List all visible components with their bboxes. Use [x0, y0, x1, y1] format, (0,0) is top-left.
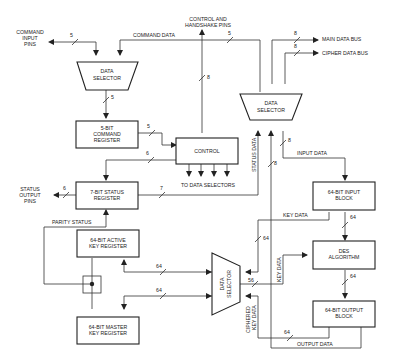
- svg-text:64: 64: [350, 214, 356, 220]
- svg-text:5: 5: [228, 30, 231, 36]
- parity-status-label: PARITY STATUS: [52, 219, 92, 225]
- control-block: CONTROL: [176, 138, 238, 164]
- active-key-register-block: 64-BIT ACTIVE KEY REGISTER: [77, 230, 139, 257]
- svg-text:64: 64: [156, 287, 162, 293]
- svg-text:PINS: PINS: [24, 41, 37, 47]
- ciphered-key-data-label: CIPHERED KEY DATA: [245, 305, 257, 333]
- data-selector-top-left: DATA SELECTOR: [77, 62, 138, 90]
- status-data-label: STATUS DATA: [251, 137, 257, 172]
- des-algorithm-block: DES ALGORITHM: [313, 241, 375, 269]
- svg-text:DATA: DATA: [264, 100, 278, 106]
- svg-text:KEY REGISTER: KEY REGISTER: [89, 243, 127, 249]
- svg-text:BLOCK: BLOCK: [335, 195, 353, 201]
- svg-text:8: 8: [207, 74, 210, 80]
- master-key-register-block: 64-BIT MASTER KEY REGISTER: [77, 317, 139, 344]
- command-register-block: 5-BIT COMMAND REGISTER: [76, 121, 138, 148]
- output-block: 64-BIT OUTPUT BLOCK: [313, 301, 375, 327]
- svg-text:8: 8: [294, 43, 297, 49]
- svg-text:CONTROL: CONTROL: [194, 148, 219, 154]
- svg-text:56: 56: [248, 277, 254, 283]
- output-data-label: OUTPUT DATA: [297, 341, 333, 347]
- svg-text:64: 64: [263, 235, 269, 241]
- svg-text:KEY DATA: KEY DATA: [251, 305, 257, 330]
- svg-text:SELECTOR: SELECTOR: [226, 270, 232, 298]
- svg-text:8: 8: [294, 30, 297, 36]
- svg-text:8: 8: [288, 137, 291, 143]
- svg-text:64: 64: [284, 329, 290, 335]
- svg-text:DATA: DATA: [100, 68, 114, 74]
- to-data-selectors-label: TO DATA SELECTORS: [181, 182, 236, 188]
- main-data-bus-label: MAIN DATA BUS: [322, 36, 362, 42]
- svg-text:6: 6: [63, 185, 66, 191]
- svg-text:SELECTOR: SELECTOR: [257, 107, 285, 113]
- svg-text:5: 5: [70, 32, 73, 38]
- svg-text:REGISTER: REGISTER: [94, 137, 121, 143]
- svg-text:64: 64: [156, 263, 162, 269]
- svg-text:SELECTOR: SELECTOR: [93, 75, 121, 81]
- svg-text:PINS: PINS: [24, 198, 37, 204]
- input-data-label: INPUT DATA: [297, 150, 328, 156]
- des-block-diagram: COMMAND INPUT PINS CONTROL AND HANDSHAKE…: [0, 0, 393, 361]
- svg-text:KEY REGISTER: KEY REGISTER: [89, 330, 127, 336]
- svg-text:REGISTER: REGISTER: [94, 195, 121, 201]
- data-selector-bottom: DATA SELECTOR: [212, 253, 240, 315]
- key-data-vertical-label: KEY DATA: [276, 257, 282, 282]
- svg-text:HANDSHAKE PINS: HANDSHAKE PINS: [185, 22, 231, 28]
- control-handshake-pins-label: CONTROL AND HANDSHAKE PINS: [185, 16, 231, 28]
- svg-text:64: 64: [350, 273, 356, 279]
- svg-text:DATA: DATA: [219, 277, 225, 291]
- cipher-data-bus-label: CIPHER DATA BUS: [322, 50, 368, 56]
- svg-text:5: 5: [147, 123, 150, 129]
- input-block: 64-BIT INPUT BLOCK: [313, 182, 375, 210]
- data-selector-top-right: DATA SELECTOR: [240, 94, 302, 120]
- command-input-pins-label: COMMAND INPUT PINS: [16, 29, 44, 47]
- svg-text:6: 6: [146, 150, 149, 156]
- svg-text:ALGORITHM: ALGORITHM: [329, 254, 360, 260]
- svg-text:BLOCK: BLOCK: [335, 313, 353, 319]
- svg-text:8: 8: [274, 160, 277, 166]
- key-data-horizontal-label: KEY DATA: [283, 212, 308, 218]
- command-data-label: COMMAND DATA: [133, 32, 175, 38]
- status-register-block: 7-BIT STATUS REGISTER: [76, 182, 138, 209]
- status-output-pins-label: STATUS OUTPUT PINS: [19, 186, 41, 204]
- svg-text:7: 7: [160, 185, 163, 191]
- svg-text:5: 5: [111, 94, 114, 100]
